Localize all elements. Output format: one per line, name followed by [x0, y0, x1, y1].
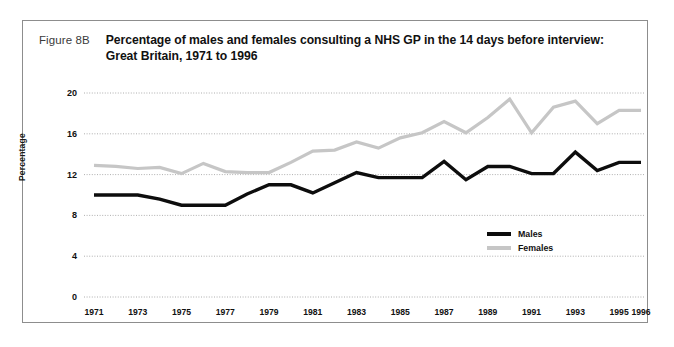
- x-axis-tick-label: 1979: [259, 307, 278, 317]
- y-axis-tick-label: 0: [53, 292, 77, 302]
- y-axis-tick-label: 4: [53, 251, 77, 261]
- series-line-females: [94, 99, 641, 173]
- x-axis-tick-label: 1995: [610, 307, 629, 317]
- legend-item-females: Females: [487, 241, 553, 255]
- x-axis-tick-label: 1987: [435, 307, 454, 317]
- x-axis-tick-label: 1985: [391, 307, 410, 317]
- x-axis-tick-label: 1975: [172, 307, 191, 317]
- x-axis-tick-label: 1996: [631, 307, 650, 317]
- y-axis-tick-label: 20: [53, 88, 77, 98]
- y-axis-title: Percentage: [17, 133, 27, 181]
- y-axis-tick-label: 12: [53, 170, 77, 180]
- legend-item-males: Males: [487, 227, 553, 241]
- line-chart: [23, 21, 649, 324]
- x-axis-tick-label: 1983: [347, 307, 366, 317]
- legend-label-females: Females: [518, 243, 553, 253]
- figure-panel: Figure 8B Percentage of males and female…: [22, 20, 648, 323]
- x-axis-tick-label: 1989: [478, 307, 497, 317]
- x-axis-tick-label: 1973: [128, 307, 147, 317]
- chart-plot-area: Percentage 048121620 1971197319751977197…: [23, 21, 649, 324]
- legend-swatch-females-icon: [487, 246, 511, 251]
- series-line-males: [94, 152, 641, 205]
- legend-swatch-males-icon: [487, 232, 511, 237]
- x-axis-tick-label: 1977: [216, 307, 235, 317]
- chart-legend: Males Females: [487, 227, 553, 255]
- x-axis-tick-label: 1971: [84, 307, 103, 317]
- x-axis-tick-label: 1981: [303, 307, 322, 317]
- y-axis-tick-label: 8: [53, 210, 77, 220]
- x-axis-tick-label: 1991: [522, 307, 541, 317]
- x-axis-tick-label: 1993: [566, 307, 585, 317]
- legend-label-males: Males: [518, 229, 542, 239]
- y-axis-tick-label: 16: [53, 129, 77, 139]
